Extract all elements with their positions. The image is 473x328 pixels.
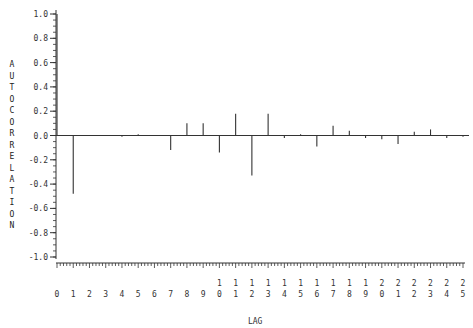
y-tick-label: 0.6 bbox=[34, 59, 49, 68]
x-tick-label: 1 bbox=[396, 290, 401, 299]
x-tick-label: 1 bbox=[331, 279, 336, 288]
y-axis-label-letter: T bbox=[8, 83, 16, 92]
x-tick-label: 4 bbox=[282, 290, 287, 299]
x-tick-label: 1 bbox=[266, 279, 271, 288]
y-axis-label-letter: A bbox=[8, 60, 16, 69]
y-tick-label: -0.6 bbox=[29, 204, 48, 213]
x-tick-label: 1 bbox=[249, 279, 254, 288]
x-tick-label: 9 bbox=[363, 290, 368, 299]
x-tick-label: 3 bbox=[266, 290, 271, 299]
x-tick-label: 7 bbox=[331, 290, 336, 299]
y-axis-label-letter: C bbox=[8, 106, 16, 115]
autocorrelation-chart: 1.00.80.60.40.20.0-0.2-0.4-0.6-0.8-1.001… bbox=[0, 0, 473, 328]
y-tick-label: -0.2 bbox=[29, 156, 48, 165]
x-tick-label: 5 bbox=[461, 290, 466, 299]
x-tick-label: 2 bbox=[379, 279, 384, 288]
x-tick-label: 6 bbox=[152, 290, 157, 299]
y-axis-label-letter: E bbox=[8, 152, 16, 161]
y-axis-label-letter: A bbox=[8, 175, 16, 184]
y-axis-label-letter: T bbox=[8, 187, 16, 196]
x-tick-label: 2 bbox=[249, 290, 254, 299]
x-tick-label: 6 bbox=[314, 290, 319, 299]
x-tick-label: 4 bbox=[120, 290, 125, 299]
x-tick-label: 2 bbox=[396, 279, 401, 288]
x-tick-label: 5 bbox=[136, 290, 141, 299]
x-tick-label: 2 bbox=[428, 279, 433, 288]
x-tick-label: 8 bbox=[185, 290, 190, 299]
x-tick-label: 1 bbox=[347, 279, 352, 288]
x-tick-label: 1 bbox=[282, 279, 287, 288]
y-axis-label-letter: O bbox=[8, 95, 16, 104]
x-tick-label: 1 bbox=[298, 279, 303, 288]
x-tick-label: 0 bbox=[217, 290, 222, 299]
x-tick-label: 1 bbox=[217, 279, 222, 288]
y-tick-label: 0.4 bbox=[34, 83, 49, 92]
x-tick-label: 1 bbox=[314, 279, 319, 288]
x-tick-label: 1 bbox=[233, 279, 238, 288]
y-tick-label: 0.2 bbox=[34, 107, 49, 116]
y-axis-label-letter: O bbox=[8, 210, 16, 219]
y-axis-label-letter: N bbox=[8, 221, 16, 230]
x-axis-label: LAG bbox=[248, 317, 263, 326]
x-tick-label: 1 bbox=[363, 279, 368, 288]
y-axis-label-letter: R bbox=[8, 129, 16, 138]
x-tick-label: 3 bbox=[103, 290, 108, 299]
y-tick-label: 1.0 bbox=[34, 10, 49, 19]
y-tick-label: -0.4 bbox=[29, 180, 48, 189]
x-tick-label: 9 bbox=[201, 290, 206, 299]
x-tick-label: 1 bbox=[233, 290, 238, 299]
x-tick-label: 2 bbox=[444, 279, 449, 288]
x-tick-label: 0 bbox=[379, 290, 384, 299]
x-tick-label: 0 bbox=[55, 290, 60, 299]
y-tick-label: 0.8 bbox=[34, 34, 49, 43]
x-tick-label: 2 bbox=[87, 290, 92, 299]
y-axis-label-letter: O bbox=[8, 118, 16, 127]
y-axis-label-letter: I bbox=[8, 198, 16, 207]
x-tick-label: 2 bbox=[412, 290, 417, 299]
x-tick-label: 5 bbox=[298, 290, 303, 299]
x-tick-label: 7 bbox=[168, 290, 173, 299]
y-axis-label-letter: R bbox=[8, 141, 16, 150]
y-axis-label-letter: U bbox=[8, 72, 16, 81]
y-tick-label: -1.0 bbox=[29, 253, 48, 262]
y-tick-label: -0.8 bbox=[29, 229, 48, 238]
x-tick-label: 4 bbox=[444, 290, 449, 299]
y-axis-label-letter: L bbox=[8, 164, 16, 173]
y-tick-label: 0.0 bbox=[34, 132, 49, 141]
x-tick-label: 8 bbox=[347, 290, 352, 299]
x-tick-label: 3 bbox=[428, 290, 433, 299]
x-tick-label: 1 bbox=[71, 290, 76, 299]
x-tick-label: 2 bbox=[461, 279, 466, 288]
x-tick-label: 2 bbox=[412, 279, 417, 288]
